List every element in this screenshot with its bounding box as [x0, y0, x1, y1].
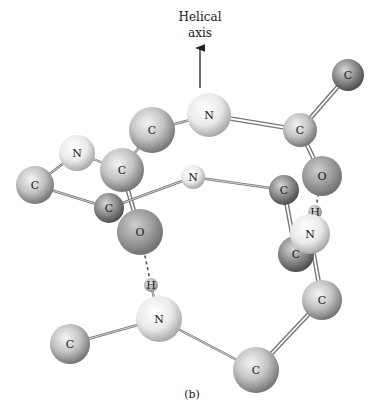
atom-label: N: [204, 109, 214, 122]
helical-axis-label-line2: axis: [188, 26, 212, 40]
atom-label: C: [344, 69, 352, 82]
alpha-helix-diagram: Helical axis CNCCNCONCCCOHCNHNCCC (b): [0, 0, 381, 414]
atom-label: C: [66, 338, 74, 351]
atom-label: N: [72, 147, 82, 160]
carbon-atom: C: [129, 107, 175, 153]
atom-label: C: [252, 364, 260, 377]
figure-caption: (b): [184, 388, 200, 401]
carbon-atom: C: [233, 347, 279, 393]
oxygen-atom: O: [302, 156, 342, 196]
oxygen-atom: O: [117, 209, 163, 255]
atom-label: N: [154, 313, 164, 326]
carbon-atom: C: [16, 166, 54, 204]
hydrogen-atom: H: [144, 278, 158, 292]
atom-label: H: [146, 279, 156, 292]
carbon-atom: C: [94, 193, 124, 223]
atom-label: C: [296, 124, 304, 137]
atom-label: N: [305, 228, 315, 241]
carbon-atom: C: [283, 113, 317, 147]
nitrogen-atom: N: [290, 214, 330, 254]
nitrogen-atom: N: [181, 165, 205, 189]
atom-label: C: [280, 184, 288, 197]
carbon-atom: C: [269, 175, 299, 205]
carbon-atom: C: [50, 324, 90, 364]
atom-label: O: [317, 170, 326, 183]
atom-label: N: [188, 171, 198, 184]
atom-label: O: [135, 226, 144, 239]
atoms-layer: CNCCNCONCCCOHCNHNCCC: [16, 59, 364, 393]
carbon-atom: C: [332, 59, 364, 91]
nitrogen-atom: N: [59, 135, 95, 171]
carbon-atom: C: [302, 280, 342, 320]
atom-label: C: [105, 202, 113, 215]
helical-axis-label-line1: Helical: [179, 10, 222, 24]
atom-label: C: [118, 164, 126, 177]
carbon-atom: C: [100, 148, 144, 192]
nitrogen-atom: N: [187, 93, 231, 137]
atom-label: C: [31, 179, 39, 192]
nitrogen-atom: N: [136, 296, 182, 342]
atom-label: C: [148, 124, 156, 137]
atom-label: C: [318, 294, 326, 307]
